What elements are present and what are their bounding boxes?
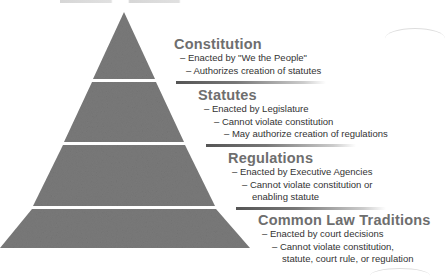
tier-regulations [33, 145, 215, 206]
tier-regulations-text: Regulations – Enacted by Executive Agenc… [228, 150, 372, 204]
tier-constitution-text: Constitution – Enacted by "We the People… [174, 36, 321, 77]
tier-constitution [93, 12, 155, 79]
tier-title: Constitution [174, 36, 321, 52]
bullet: – Enacted by court decisions [262, 228, 431, 241]
divider [206, 144, 356, 147]
tier-common-law-text: Common Law Traditions – Enacted by court… [258, 212, 431, 266]
bullet: enabling statute [252, 191, 372, 204]
tier-title: Regulations [228, 150, 372, 166]
tier-title: Common Law Traditions [258, 212, 431, 228]
tier-title: Statutes [198, 87, 388, 103]
divider [176, 81, 326, 84]
bullet: – Enacted by Executive Agencies [232, 166, 372, 179]
bullet: – Cannot violate constitution or [242, 179, 372, 192]
bullet: – Enacted by "We the People" [180, 52, 321, 65]
bullet: statute, court rule, or regulation [282, 253, 431, 266]
tier-statutes [64, 82, 184, 142]
bullet: – Authorizes creation of statutes [186, 65, 321, 78]
tier-statutes-text: Statutes – Enacted by Legislature – Cann… [198, 87, 388, 141]
tier-common-law [0, 209, 250, 248]
bullet: – Cannot violate constitution, [272, 241, 431, 254]
bullet: – Cannot violate constitution [214, 116, 388, 129]
page-curl-top [385, 28, 445, 49]
bullet: – May authorize creation of regulations [224, 128, 388, 141]
divider [236, 207, 386, 210]
page-curl-bottom [370, 268, 430, 278]
bullet: – Enacted by Legislature [204, 103, 388, 116]
